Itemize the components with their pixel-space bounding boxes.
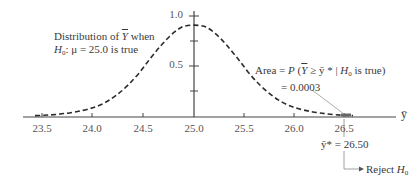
x-tick-label: 26.0 [284, 122, 303, 134]
x-tick-label: 25.5 [234, 122, 253, 134]
rejection-area [341, 114, 351, 117]
x-tick-label: 24.5 [133, 122, 152, 134]
x-tick-label: 26.5 [334, 122, 353, 134]
area-value: = 0.0003 [255, 81, 385, 94]
y-tick-label: 0.5 [153, 58, 183, 70]
area-annotation: Area = P (Y ≥ ȳ * | H0 is true) = 0.0003 [255, 64, 385, 94]
area-line-1: Area = P (Y ≥ ȳ * | H0 is true) [255, 64, 385, 81]
x-tick-label: 23.5 [32, 122, 51, 134]
ystar-label: ȳ* = 26.50 [321, 138, 368, 151]
x-tick-label: 25.0 [184, 122, 203, 134]
reject-arrow-line [344, 151, 359, 169]
distribution-annotation: Distribution of Y when H0: μ = 25.0 is t… [54, 30, 155, 60]
reject-label: Reject H0 [366, 163, 408, 180]
distribution-line-1: Distribution of Y when [54, 30, 155, 43]
reject-arrowhead-icon [359, 167, 364, 172]
x-axis-label: ȳ [401, 108, 407, 121]
x-tick-label: 24.0 [82, 122, 101, 134]
y-tick-label: 1.0 [153, 8, 183, 20]
distribution-line-2: H0: μ = 25.0 is true [54, 43, 155, 60]
